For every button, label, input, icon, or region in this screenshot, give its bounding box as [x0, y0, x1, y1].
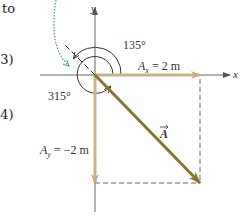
ay-value: = −2 m	[51, 143, 90, 157]
y-axis-label: y	[90, 2, 96, 14]
vector-a-label: A	[159, 127, 168, 141]
x-axis-label: x	[232, 68, 238, 80]
arc-135-inner	[82, 56, 113, 75]
angle-315-label: 315°	[48, 89, 71, 103]
vector-a-arrow	[95, 75, 200, 183]
vector-diagram: y x 135° 315° Ax = 2 m Ay = −2 m A	[0, 0, 241, 215]
ax-label: Ax = 2 m	[137, 59, 181, 75]
dotted-curved-arrow	[54, 0, 69, 66]
angle-135-label: 135°	[123, 38, 146, 52]
ax-value: = 2 m	[149, 59, 181, 73]
ay-label: Ay = −2 m	[39, 143, 89, 159]
